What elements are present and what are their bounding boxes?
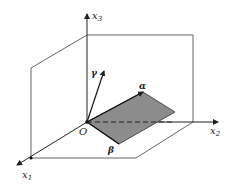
origin-label: O — [79, 126, 87, 137]
gamma-label: γ — [91, 68, 98, 78]
beta-label: β — [107, 145, 114, 155]
coordinate-diagram: x3 x2 x1 O α β γ — [0, 0, 234, 185]
x2-axis-label: x2 — [210, 125, 221, 138]
x1-plane-corner-point — [29, 156, 32, 159]
x3-axis-label: x3 — [92, 10, 103, 23]
parallelogram-alpha-beta — [87, 92, 175, 144]
x1-axis — [17, 122, 87, 165]
alpha-label: α — [139, 81, 146, 91]
x1-axis-label: x1 — [22, 169, 32, 182]
origin-point — [85, 120, 89, 124]
